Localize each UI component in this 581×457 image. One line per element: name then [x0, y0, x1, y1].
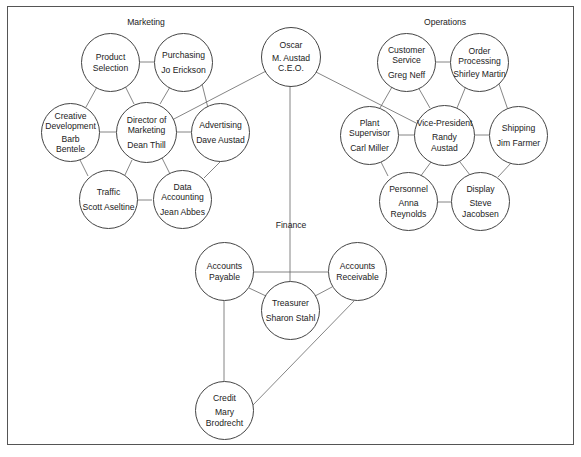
node-person: Dave Austad — [196, 135, 245, 146]
node-title: Purchasing — [162, 50, 205, 61]
node-person: Jo Erickson — [161, 65, 205, 76]
node-accounts-receivable[interactable]: Accounts Receivable — [328, 242, 387, 301]
node-personnel[interactable]: Personnel Anna Reynolds — [379, 172, 438, 231]
node-person: Sharon Stahl — [266, 313, 316, 324]
section-label-operations: Operations — [424, 17, 466, 27]
node-accounts-payable[interactable]: Accounts Payable — [195, 242, 254, 301]
node-plant-supervisor[interactable]: Plant Supervisor Carl Miller — [340, 106, 399, 165]
node-shipping[interactable]: Shipping Jim Farmer — [489, 106, 548, 165]
node-title: Personnel — [389, 184, 428, 195]
section-label-finance: Finance — [276, 220, 307, 230]
node-title: Advertising — [199, 120, 242, 131]
node-person: Mary Brodrecht — [206, 407, 243, 428]
node-person: Barb Bentele — [56, 134, 85, 155]
node-person: Steve Jacobsen — [462, 198, 499, 219]
node-title: Accounts Payable — [207, 261, 242, 282]
node-vice-president[interactable]: Vice-President Randy Austad — [414, 105, 475, 166]
node-product-selection[interactable]: Product Selection — [81, 33, 140, 92]
node-person: Randy Austad — [431, 132, 458, 153]
node-title: Creative Development — [45, 111, 96, 132]
node-person: Jean Abbes — [160, 207, 205, 218]
node-title: Traffic — [97, 187, 120, 198]
node-title: Credit — [213, 393, 236, 404]
node-data-accounting[interactable]: Data Accounting Jean Abbes — [153, 170, 212, 229]
node-person: Scott Aseltine — [82, 202, 134, 213]
node-purchasing[interactable]: Purchasing Jo Erickson — [154, 33, 213, 92]
node-title: Data Accounting — [161, 182, 204, 203]
node-person: Shirley Martin — [453, 69, 506, 80]
node-title: Treasurer — [272, 298, 309, 309]
node-display[interactable]: Display Steve Jacobsen — [451, 172, 510, 231]
node-person: M. Austad C.E.O. — [272, 53, 310, 74]
node-customer-service[interactable]: Customer Service Greg Neff — [377, 33, 436, 92]
section-label-marketing: Marketing — [127, 17, 165, 27]
node-traffic[interactable]: Traffic Scott Aseltine — [79, 170, 138, 229]
node-person: Carl Miller — [350, 143, 389, 154]
node-order-processing[interactable]: Order Processing Shirley Martin — [450, 33, 509, 92]
node-title: Product Selection — [93, 52, 128, 73]
node-title: Display — [466, 184, 494, 195]
node-person: Jim Farmer — [497, 138, 540, 149]
node-person: Greg Neff — [388, 70, 425, 81]
node-treasurer[interactable]: Treasurer Sharon Stahl — [261, 281, 320, 340]
node-person: Anna Reynolds — [391, 198, 427, 219]
node-title: Plant Supervisor — [349, 118, 390, 139]
node-title: Vice-President — [417, 118, 473, 129]
node-director-marketing[interactable]: Director of Marketing Dean Thill — [116, 102, 177, 163]
node-title: Customer Service — [388, 45, 425, 66]
node-ceo[interactable]: Oscar M. Austad C.E.O. — [261, 27, 321, 87]
node-title: Oscar — [280, 40, 303, 51]
node-title: Order Processing — [458, 46, 501, 67]
node-credit[interactable]: Credit Mary Brodrecht — [195, 381, 254, 440]
node-title: Director of Marketing — [127, 115, 167, 136]
node-creative-development[interactable]: Creative Development Barb Bentele — [41, 103, 100, 162]
node-person: Dean Thill — [127, 140, 166, 151]
node-advertising[interactable]: Advertising Dave Austad — [191, 103, 250, 162]
node-title: Accounts Receivable — [336, 261, 379, 282]
node-title: Shipping — [502, 123, 535, 134]
